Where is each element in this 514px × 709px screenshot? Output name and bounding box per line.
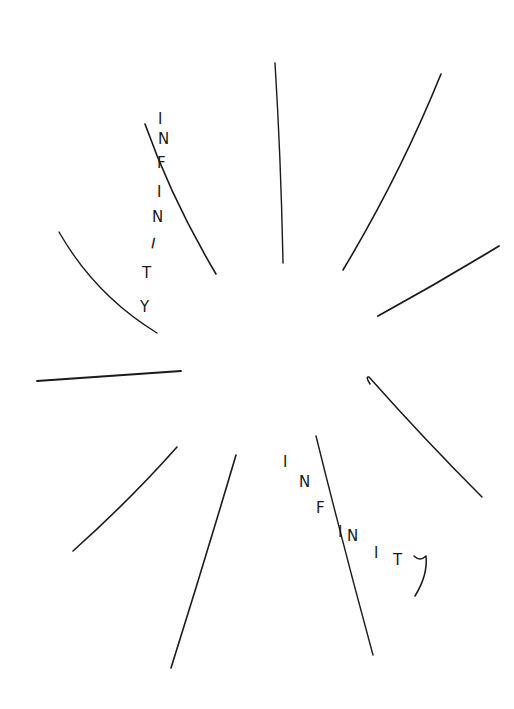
ray-top-right: [343, 74, 441, 270]
ray-right-lower: [367, 377, 482, 497]
letter: N: [299, 473, 310, 491]
letter: T: [392, 551, 403, 569]
sketch-canvas: I N F I N I T Y I N F I N I T: [0, 0, 514, 709]
letter: N: [152, 208, 163, 226]
ray-top-left: [145, 124, 216, 274]
infinity-word-diagonal: I N F I N I T: [283, 453, 426, 596]
letter: I: [338, 523, 342, 541]
letter: F: [316, 499, 325, 517]
letter: N: [347, 527, 358, 545]
ray-bottom-center-right: [316, 436, 373, 655]
letter: N: [158, 130, 169, 148]
ray-left: [37, 371, 181, 381]
letter: F: [157, 154, 166, 172]
letter-y-tail: [414, 556, 426, 596]
letter: I: [149, 234, 157, 253]
letter: I: [374, 544, 378, 562]
ray-right: [378, 246, 499, 316]
ray-bottom-left: [73, 447, 177, 551]
letter: I: [283, 453, 287, 471]
ray-top: [275, 63, 283, 263]
ray-bottom-center-left: [171, 455, 236, 668]
ray-left-upper: [59, 232, 157, 333]
letter: T: [141, 264, 152, 282]
infinity-word-vertical: I N F I N I T Y: [139, 110, 169, 316]
letter: I: [158, 110, 162, 128]
letter: Y: [139, 298, 150, 316]
letter: I: [157, 183, 161, 201]
starburst-drawing: I N F I N I T Y I N F I N I T: [0, 0, 514, 709]
